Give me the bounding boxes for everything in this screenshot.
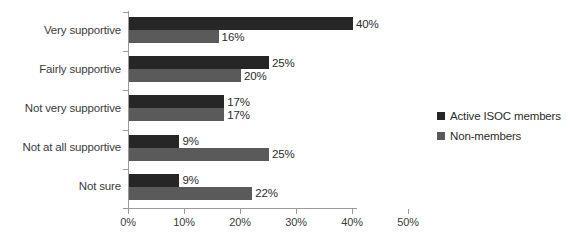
- category-label: Very supportive: [0, 24, 121, 36]
- bar: [129, 148, 269, 161]
- legend-label: Active ISOC members: [450, 110, 561, 122]
- bar-value-label: 20%: [244, 70, 267, 82]
- category-axis-tick: [123, 12, 128, 13]
- category-axis-tick: [123, 130, 128, 131]
- chart-legend: Active ISOC members Non-members: [437, 106, 561, 146]
- bar: [129, 95, 224, 108]
- value-axis-tick-label: 20%: [220, 216, 260, 228]
- value-axis-tick-label: 50%: [388, 216, 428, 228]
- bar-value-label: 40%: [356, 18, 379, 30]
- value-axis-tick: [352, 209, 353, 214]
- category-label: Not very supportive: [0, 102, 121, 114]
- value-axis-tick-label: 0%: [108, 216, 148, 228]
- value-axis-tick: [128, 209, 129, 214]
- legend-label: Non-members: [450, 130, 521, 142]
- legend-swatch-icon: [437, 112, 445, 120]
- bar-value-label: 22%: [255, 187, 278, 199]
- bar: [129, 108, 224, 121]
- value-axis-tick-label: 10%: [164, 216, 204, 228]
- category-axis-tick: [123, 90, 128, 91]
- legend-item-non-members: Non-members: [437, 126, 561, 146]
- category-label: Fairly supportive: [0, 63, 121, 75]
- category-axis-tick: [123, 51, 128, 52]
- value-axis-tick: [240, 209, 241, 214]
- legend-item-active-isoc-members: Active ISOC members: [437, 106, 561, 126]
- category-label: Not at all supportive: [0, 141, 121, 153]
- bar: [129, 135, 179, 148]
- bar-chart: Very supportiveFairly supportiveNot very…: [0, 0, 575, 250]
- value-axis-tick-label: 40%: [332, 216, 372, 228]
- bar-value-label: 25%: [272, 148, 295, 160]
- bar-value-label: 16%: [222, 31, 245, 43]
- value-axis-tick: [296, 209, 297, 214]
- bar: [129, 56, 269, 69]
- bar-value-label: 9%: [182, 135, 198, 147]
- bar-value-label: 9%: [182, 174, 198, 186]
- category-axis-tick: [123, 169, 128, 170]
- bar: [129, 17, 353, 30]
- legend-swatch-icon: [437, 132, 445, 140]
- bar-value-label: 17%: [227, 109, 250, 121]
- bar-value-label: 25%: [272, 57, 295, 69]
- bar: [129, 30, 219, 43]
- bar: [129, 69, 241, 82]
- category-label: Not sure: [0, 180, 121, 192]
- value-axis-tick: [408, 209, 409, 214]
- value-axis-line: [128, 208, 357, 209]
- bar: [129, 187, 252, 200]
- bar: [129, 174, 179, 187]
- value-axis-tick-label: 30%: [276, 216, 316, 228]
- bar-value-label: 17%: [227, 96, 250, 108]
- value-axis-tick: [184, 209, 185, 214]
